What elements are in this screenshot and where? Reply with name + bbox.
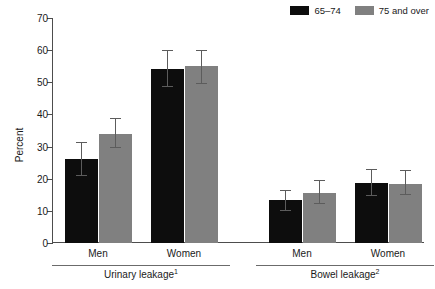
bar-chart: 65–74 75 and over Percent 01020304050607… xyxy=(0,0,435,289)
group-label-footnote: 2 xyxy=(376,268,380,275)
group-rule xyxy=(256,265,434,266)
legend-entry-65-74: 65–74 xyxy=(290,6,340,16)
y-tick: 10 xyxy=(52,211,58,212)
y-tick-label: 0 xyxy=(42,238,48,249)
legend-label-65-74: 65–74 xyxy=(314,6,340,16)
group-rule xyxy=(52,265,230,266)
y-tick-label: 20 xyxy=(37,173,48,184)
error-bar xyxy=(167,51,168,87)
error-cap-upper xyxy=(280,190,291,191)
error-cap-lower xyxy=(196,83,207,84)
error-cap-upper xyxy=(366,169,377,170)
legend-swatch-65-74 xyxy=(290,6,309,15)
group-label: Bowel leakage2 xyxy=(311,269,380,280)
y-tick: 40 xyxy=(52,114,58,115)
error-bar xyxy=(371,170,372,196)
y-tick-label: 10 xyxy=(37,205,48,216)
legend-entry-75-and-over: 75 and over xyxy=(355,6,429,16)
y-tick-label: 30 xyxy=(37,141,48,152)
x-category-label: Women xyxy=(167,248,201,259)
y-tick-label: 40 xyxy=(37,109,48,120)
error-cap-upper xyxy=(196,50,207,51)
bar xyxy=(185,66,218,243)
error-cap-lower xyxy=(366,195,377,196)
y-tick: 20 xyxy=(52,179,58,180)
legend-label-75-and-over: 75 and over xyxy=(379,6,429,16)
plot-area: 010203040506070 xyxy=(52,18,424,243)
bar xyxy=(99,134,132,243)
y-tick-label: 50 xyxy=(37,77,48,88)
error-bar xyxy=(115,119,116,148)
x-category-label: Men xyxy=(292,248,311,259)
group-label-footnote: 1 xyxy=(174,268,178,275)
error-cap-lower xyxy=(400,194,411,195)
y-tick: 60 xyxy=(52,50,58,51)
error-bar xyxy=(81,143,82,176)
error-bar xyxy=(201,51,202,83)
error-cap-lower xyxy=(162,86,173,87)
y-axis-title: Percent xyxy=(14,127,25,161)
error-cap-lower xyxy=(110,147,121,148)
y-tick-label: 70 xyxy=(37,13,48,24)
error-cap-upper xyxy=(110,118,121,119)
y-axis-line xyxy=(52,18,53,243)
y-tick: 50 xyxy=(52,82,58,83)
y-tick: 70 xyxy=(52,18,58,19)
error-cap-upper xyxy=(162,50,173,51)
error-bar xyxy=(405,171,406,195)
group-label: Urinary leakage1 xyxy=(104,269,178,280)
y-tick: 0 xyxy=(52,243,58,244)
error-bar xyxy=(285,191,286,211)
error-cap-upper xyxy=(314,180,325,181)
error-cap-upper xyxy=(76,142,87,143)
chart-legend: 65–74 75 and over xyxy=(290,6,429,16)
x-category-label: Men xyxy=(88,248,107,259)
x-category-label: Women xyxy=(371,248,405,259)
error-cap-lower xyxy=(314,203,325,204)
error-cap-lower xyxy=(76,175,87,176)
y-tick-label: 60 xyxy=(37,45,48,56)
error-bar xyxy=(319,181,320,204)
error-cap-upper xyxy=(400,170,411,171)
bar xyxy=(151,69,184,243)
legend-swatch-75-and-over xyxy=(355,6,374,15)
error-cap-lower xyxy=(280,210,291,211)
y-tick: 30 xyxy=(52,147,58,148)
